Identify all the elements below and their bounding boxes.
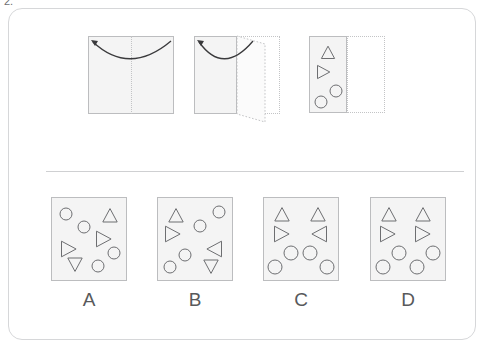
punched-circle (92, 260, 104, 272)
option-d[interactable]: D (370, 197, 446, 311)
punched-triangle-down (204, 260, 218, 273)
punched-circle (60, 208, 72, 220)
punched-circle (320, 260, 334, 274)
option-b[interactable]: B (157, 197, 233, 311)
punched-circle (315, 96, 327, 108)
ghost-outline (347, 36, 385, 113)
option-label-b: B (157, 289, 233, 311)
punched-circle (108, 247, 120, 259)
punched-circle (284, 246, 298, 260)
punched-triangle-right (97, 231, 112, 247)
punched-triangle-left (207, 241, 222, 257)
punched-circle (330, 85, 342, 97)
punched-triangle-right (166, 226, 181, 242)
punched-circle (410, 260, 424, 274)
punched-circle (164, 261, 176, 273)
punched-circle (392, 246, 406, 260)
punched-triangle-up (169, 209, 183, 222)
punched-triangle-right (275, 226, 290, 242)
punched-shapes-group (309, 36, 347, 113)
option-label-a: A (51, 289, 127, 311)
punched-triangle-down (68, 258, 82, 271)
punched-circle (376, 260, 390, 274)
punched-triangle-right (381, 226, 396, 242)
option-shapes-group (51, 197, 127, 281)
punched-triangle-up (103, 209, 117, 222)
option-label-c: C (263, 289, 339, 311)
option-label-d: D (370, 289, 446, 311)
punched-circle (268, 260, 282, 274)
punched-triangle-up (311, 208, 325, 221)
option-shapes-group (263, 197, 339, 281)
punched-triangle-up (275, 208, 289, 221)
punched-circle (303, 246, 317, 260)
punched-triangle-left (312, 226, 327, 242)
section-divider (46, 171, 464, 172)
punched-triangle-up (321, 46, 334, 58)
punched-triangle-right (318, 65, 330, 78)
option-shapes-group (370, 197, 446, 281)
punched-triangle-right (62, 241, 77, 257)
punched-circle (78, 221, 90, 233)
punched-triangle-up (416, 208, 430, 221)
punched-circle (179, 249, 191, 261)
punched-triangle-right (416, 226, 431, 242)
question-number: 2. (4, 0, 13, 7)
punched-circle (213, 206, 225, 218)
option-a[interactable]: A (51, 197, 127, 311)
punched-circle (194, 220, 206, 232)
option-c[interactable]: C (263, 197, 339, 311)
punched-triangle-up (382, 208, 396, 221)
step-3-punched (9, 9, 475, 159)
option-shapes-group (157, 197, 233, 281)
punched-circle (426, 246, 440, 260)
question-card: ABCD (8, 8, 476, 340)
